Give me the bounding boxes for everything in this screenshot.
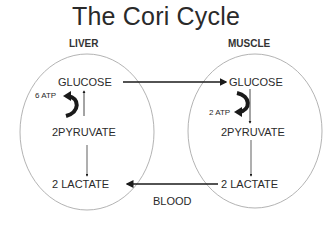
- liver-pyruvate: 2PYRUVATE: [52, 126, 116, 138]
- liver-atp: 6 ATP: [35, 91, 56, 100]
- liver-atp-curved-arrow-icon: [66, 96, 77, 116]
- liver-lactate: 2 LACTATE: [52, 178, 109, 190]
- muscle-header: MUSCLE: [228, 38, 270, 49]
- liver-header: LIVER: [69, 38, 98, 49]
- muscle-lactate: 2 LACTATE: [221, 178, 278, 190]
- blood-label: BLOOD: [153, 195, 192, 207]
- muscle-atp: 2 ATP: [209, 108, 230, 117]
- page-title: The Cori Cycle: [72, 2, 240, 31]
- muscle-glucose: GLUCOSE: [229, 76, 283, 88]
- muscle-pyruvate: 2PYRUVATE: [221, 126, 285, 138]
- cori-diagram: [0, 0, 333, 226]
- liver-glucose: GLUCOSE: [58, 76, 112, 88]
